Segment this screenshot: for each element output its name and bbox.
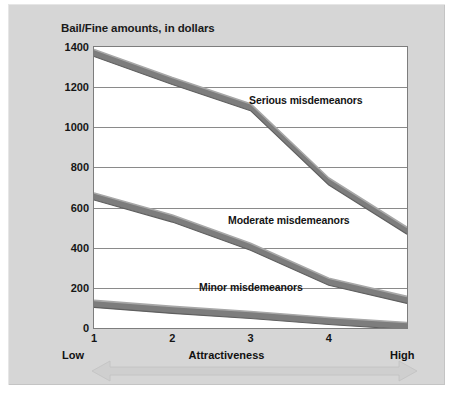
chart-title: Bail/Fine amounts, in dollars — [61, 22, 215, 34]
y-axis-tick-label: 200 — [43, 282, 89, 294]
low-to-high-arrow-icon — [92, 358, 417, 384]
chart-figure: Bail/Fine amounts, in dollars 0200400600… — [0, 0, 453, 408]
source-note — [8, 399, 308, 408]
series-annotation-serious: Serious misdemeanors — [249, 94, 363, 106]
y-axis-tick-label: 1200 — [43, 81, 89, 93]
y-axis-tick-label: 0 — [43, 322, 89, 334]
y-axis-tick-label: 600 — [43, 202, 89, 214]
y-axis-tick-label: 800 — [43, 161, 89, 173]
y-axis-tick-label: 400 — [43, 242, 89, 254]
x-axis-tick-label: 2 — [169, 332, 175, 344]
axis-endpoint-low: Low — [62, 349, 84, 361]
x-axis-tick-label: 4 — [326, 332, 332, 344]
series-line-3 — [94, 300, 407, 328]
y-axis-tick-label: 1400 — [43, 41, 89, 53]
x-axis-ticks: 1234 — [93, 332, 408, 348]
series-annotation-moderate: Moderate misdemeanors — [228, 214, 350, 226]
y-axis-tick-label: 1000 — [43, 121, 89, 133]
series-annotation-minor: Minor misdemeanors — [199, 281, 303, 293]
y-axis-ticks: 0200400600800100012001400 — [39, 46, 89, 329]
x-axis-tick-label: 1 — [91, 332, 97, 344]
x-axis-tick-label: 3 — [247, 332, 253, 344]
